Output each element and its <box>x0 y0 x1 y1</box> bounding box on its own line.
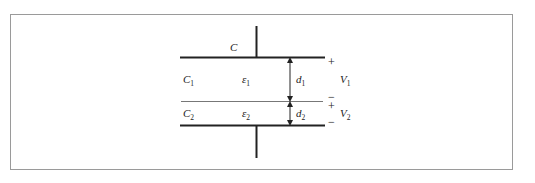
v1-label: V1 <box>340 73 351 88</box>
epsilon1-label: ε1 <box>242 73 250 88</box>
capacitor-diagram: C C1 ε1 d1 V1 C2 ε2 d2 V2 + − + − <box>0 0 535 183</box>
c1-label: C1 <box>183 73 194 88</box>
v1-plus-sign: + <box>328 55 335 69</box>
v2-minus-sign: − <box>328 115 335 129</box>
d2-label: d2 <box>296 107 306 122</box>
v2-plus-sign: + <box>328 99 335 113</box>
d1-label: d1 <box>296 73 306 88</box>
c2-label: C2 <box>183 107 194 122</box>
v2-label: V2 <box>340 107 351 122</box>
total-capacitance-label: C <box>230 41 238 53</box>
epsilon2-label: ε2 <box>242 107 250 122</box>
